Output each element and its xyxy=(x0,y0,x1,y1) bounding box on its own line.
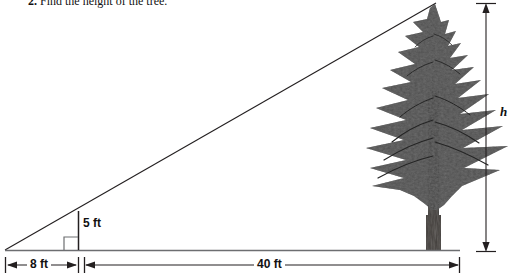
label-shadow-near: 8 ft xyxy=(27,257,51,271)
figure-page: 2. Find the height of the tree. xyxy=(0,0,509,275)
label-stick-height: 5 ft xyxy=(83,216,101,230)
arrowhead-left-8ft xyxy=(7,261,17,268)
right-angle-marker xyxy=(64,237,78,250)
horizontal-dimensions xyxy=(6,257,460,273)
tree-height-diagram xyxy=(0,0,509,275)
hypotenuse-line xyxy=(5,3,436,250)
arrowhead-right-40ft xyxy=(449,261,459,268)
tree-photo xyxy=(366,4,508,250)
arrowhead-right-8ft xyxy=(67,261,77,268)
label-shadow-far: 40 ft xyxy=(254,257,285,271)
arrowhead-top-h xyxy=(482,3,489,13)
label-tree-height: h xyxy=(497,104,509,120)
arrowhead-bottom-h xyxy=(482,242,489,252)
arrowhead-left-40ft xyxy=(85,261,95,268)
